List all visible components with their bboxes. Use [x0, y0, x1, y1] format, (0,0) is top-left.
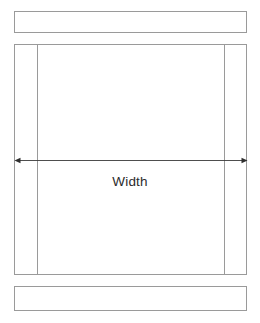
width-label: Width: [0, 173, 260, 190]
top-bar-rectangle: [14, 11, 247, 33]
diagram-canvas: Width: [0, 0, 260, 323]
bottom-bar-rectangle: [14, 286, 247, 311]
arrow-head-left: [15, 158, 21, 163]
arrow-head-right: [242, 158, 248, 163]
width-dimension-arrow-icon: [12, 152, 250, 169]
